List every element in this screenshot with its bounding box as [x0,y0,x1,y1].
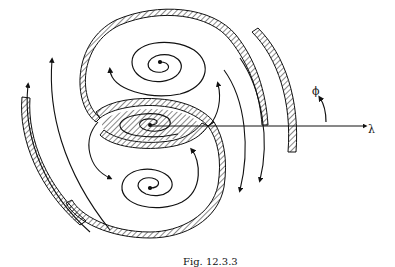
separatrix-band-upper [80,9,268,126]
phi-rotation-arrow-icon [320,98,326,122]
lambda-axis-label: λ [368,123,375,136]
figure-caption: Fig. 12.3.3 [183,256,238,267]
lower-spiral-vortex [122,150,198,208]
phi-label: ϕ [312,85,320,98]
upper-spiral-vortex [110,42,205,95]
